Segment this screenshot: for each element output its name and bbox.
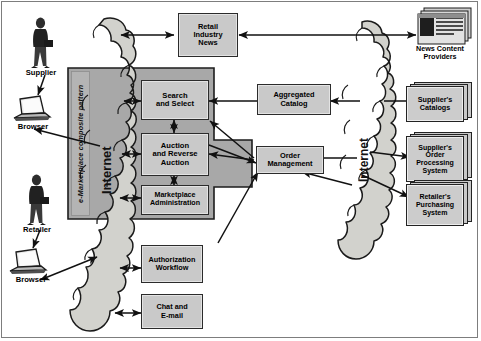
news-providers-line2: Providers — [400, 53, 480, 61]
marketplace-admin-line2: Administration — [150, 200, 200, 208]
suppliers-catalogs-label: Supplier's Catalogs — [406, 86, 464, 122]
suppliers-order-processing-label: Supplier's Order Processing System — [406, 136, 464, 182]
suppliers-ops-line3: Processing — [416, 159, 454, 167]
node-order-management[interactable]: Order Management — [256, 146, 324, 174]
news-content-providers-label: News Content Providers — [400, 45, 480, 62]
node-aggregated-catalog[interactable]: Aggregated Catalog — [257, 84, 331, 115]
retailer-person-icon — [27, 175, 49, 225]
diagram-canvas: e-Marketplace composite pattern Internet… — [0, 0, 481, 341]
chat-line2: E-mail — [161, 312, 183, 320]
retail-industry-news-line3: News — [198, 39, 217, 47]
node-retailers-purchasing-system[interactable]: Retailer's Purchasing System — [406, 180, 474, 228]
node-marketplace-administration[interactable]: Marketplace Administration — [141, 185, 209, 215]
search-and-select-line2: and Select — [156, 100, 194, 109]
node-search-and-select[interactable]: Search and Select — [141, 80, 209, 120]
order-management-line2: Management — [267, 160, 312, 168]
suppliers-ops-line2: Order — [425, 151, 444, 159]
supplier-browser-label: Browser — [2, 123, 64, 132]
node-auction-and-reverse-auction[interactable]: Auction and Reverse Auction — [141, 133, 209, 176]
node-suppliers-catalogs[interactable]: Supplier's Catalogs — [406, 82, 474, 122]
internet-label-right: Internet — [353, 110, 375, 210]
suppliers-ops-line1: Supplier's — [418, 144, 452, 152]
news-content-providers-icon — [418, 8, 471, 44]
retailer-browser-label: Browser — [0, 276, 62, 285]
retailer-label: Retailer — [6, 226, 68, 235]
node-suppliers-order-processing-system[interactable]: Supplier's Order Processing System — [406, 132, 474, 184]
retailers-purchasing-label: Retailer's Purchasing System — [406, 184, 464, 226]
suppliers-catalogs-line2: Catalogs — [420, 104, 450, 112]
node-chat-and-email[interactable]: Chat and E-mail — [141, 294, 203, 329]
supplier-label: Supplier — [10, 69, 72, 78]
node-authorization-workflow[interactable]: Authorization Workflow — [141, 245, 203, 283]
suppliers-ops-line4: System — [423, 167, 448, 175]
auction-line3: Auction — [161, 159, 189, 168]
composite-pattern-label: e-Marketplace composite pattern — [70, 71, 91, 216]
retailers-purchasing-line1: Retailer's — [419, 193, 450, 201]
node-retail-industry-news[interactable]: Retail Industry News — [178, 13, 238, 57]
connector-supplier-to-browser — [38, 75, 45, 95]
supplier-laptop-icon — [14, 96, 50, 121]
supplier-person-icon — [31, 18, 53, 68]
internet-label-left: Internet — [95, 120, 117, 220]
retailers-purchasing-line3: System — [423, 209, 448, 217]
retailers-purchasing-line2: Purchasing — [416, 201, 454, 209]
authorization-line2: Workflow — [156, 264, 189, 272]
aggregated-catalog-line2: Catalog — [280, 100, 307, 108]
retailer-laptop-icon — [10, 249, 46, 274]
